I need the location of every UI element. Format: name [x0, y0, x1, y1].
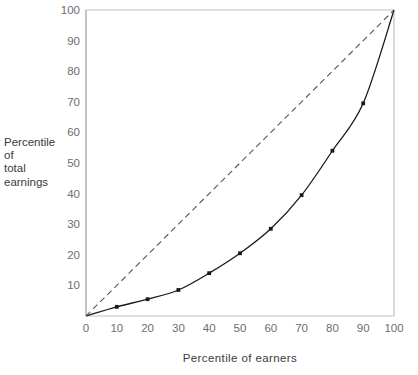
y-tick-label: 30: [54, 218, 80, 230]
data-point-marker: [177, 288, 181, 292]
x-tick-label: 70: [289, 322, 315, 334]
lorenz-curve-figure: Percentile of total earnings Percentile …: [0, 0, 418, 375]
data-point-marker: [269, 227, 273, 231]
x-axis-label: Percentile of earners: [86, 352, 394, 364]
data-point-marker: [238, 251, 242, 255]
y-tick-label: 20: [54, 249, 80, 261]
y-tick-label: 100: [54, 4, 80, 16]
data-point-marker: [207, 271, 211, 275]
x-tick-label: 40: [196, 322, 222, 334]
y-tick-label: 40: [54, 188, 80, 200]
data-series-layer: [86, 10, 394, 316]
y-tick-label: 90: [54, 35, 80, 47]
data-point-marker: [146, 297, 150, 301]
x-tick-label: 100: [381, 322, 407, 334]
x-tick-label: 90: [350, 322, 376, 334]
series-line: [86, 10, 394, 316]
x-tick-label: 80: [319, 322, 345, 334]
y-tick-label: 10: [54, 279, 80, 291]
data-point-marker: [361, 101, 365, 105]
data-point-marker: [300, 193, 304, 197]
y-tick-label: 70: [54, 96, 80, 108]
x-tick-label: 60: [258, 322, 284, 334]
y-tick-label: 50: [54, 157, 80, 169]
x-tick-label: 50: [227, 322, 253, 334]
x-tick-label: 20: [135, 322, 161, 334]
data-point-marker: [331, 149, 335, 153]
y-tick-label: 60: [54, 126, 80, 138]
series-line-of-equality: [86, 10, 394, 316]
x-tick-label: 30: [165, 322, 191, 334]
x-tick-label: 10: [104, 322, 130, 334]
x-tick-label: 0: [73, 322, 99, 334]
y-tick-label: 80: [54, 65, 80, 77]
data-point-marker: [115, 305, 119, 309]
